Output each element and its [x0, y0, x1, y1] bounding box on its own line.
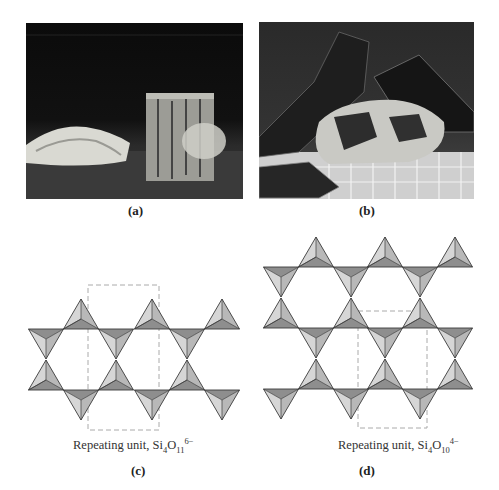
repeating-unit-label-c: Repeating unit, Si4O116−	[73, 436, 193, 455]
formula-o: O	[432, 438, 441, 452]
caption-c: (c)	[131, 463, 145, 479]
formula-si: Si	[418, 438, 428, 452]
formula-si: Si	[153, 438, 163, 452]
label-prefix: Repeating unit,	[338, 438, 418, 452]
formula-o-subscript: 10	[441, 445, 450, 455]
sheet-silicate-diagram	[264, 237, 473, 428]
double-chain-diagram	[29, 285, 240, 430]
repeating-unit-label-d: Repeating unit, Si4O104−	[338, 436, 459, 455]
formula-o: O	[167, 438, 176, 452]
formula-o-subscript: 11	[176, 445, 184, 455]
formula-charge: 6−	[184, 436, 193, 446]
caption-d: (d)	[359, 463, 375, 479]
formula-charge: 4−	[450, 436, 459, 446]
silicate-structure-diagrams	[0, 0, 499, 490]
label-prefix: Repeating unit,	[73, 438, 153, 452]
